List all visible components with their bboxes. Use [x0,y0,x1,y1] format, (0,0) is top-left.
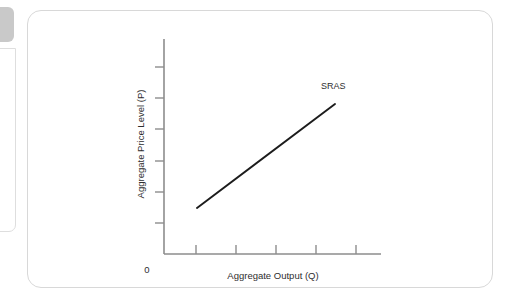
y-axis-ticks [155,67,164,223]
x-axis-label: Aggregate Output (Q) [227,270,318,281]
chart-card: SRAS 0 Aggregate Output (Q) Aggregate Pr… [27,10,493,288]
left-edge-panel [0,48,16,232]
screenshot-root: SRAS 0 Aggregate Output (Q) Aggregate Pr… [0,0,512,306]
left-edge-gray-chip [0,7,14,42]
sras-curve [197,104,335,208]
sras-label: SRAS [321,81,346,91]
y-axis-label: Aggregate Price Level (P) [135,90,146,199]
sras-chart: SRAS 0 Aggregate Output (Q) Aggregate Pr… [28,11,494,289]
origin-label: 0 [144,264,149,275]
x-axis-ticks [196,245,356,254]
